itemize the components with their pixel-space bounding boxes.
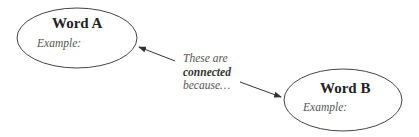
connector-line-2: connected xyxy=(183,66,231,80)
node-b-ellipse xyxy=(284,69,402,131)
node-b-title: Word B xyxy=(320,80,370,97)
node-a-example-label: Example: xyxy=(37,37,81,49)
connector-text: These are connected because… xyxy=(183,52,231,93)
connector-line-1: These are xyxy=(183,52,231,66)
arrow-to-word-b xyxy=(240,82,281,97)
node-a-title: Word A xyxy=(52,15,102,32)
node-b-example-label: Example: xyxy=(303,101,347,113)
connector-line-3: because… xyxy=(183,79,231,93)
arrow-to-word-a xyxy=(139,47,175,61)
